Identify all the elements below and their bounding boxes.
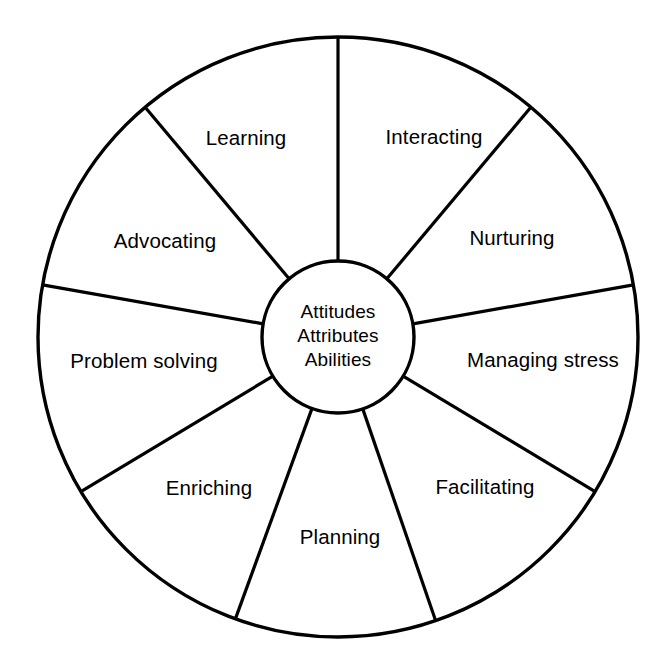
wheel-svg: AttitudesAttributesAbilities Interacting… [0,0,672,659]
hub-text-group: AttitudesAttributesAbilities [297,301,378,370]
segment-label-nurturing: Nurturing [469,226,554,249]
segment-label-problem-solving: Problem solving [70,349,217,372]
segment-label-enriching: Enriching [166,476,252,499]
competency-wheel-diagram: AttitudesAttributesAbilities Interacting… [0,0,672,659]
segment-label-facilitating: Facilitating [435,475,534,498]
segment-label-interacting: Interacting [386,125,483,148]
hub-label-line-0: Attitudes [301,301,376,322]
hub-label-line-1: Attributes [297,325,378,346]
segment-label-planning: Planning [300,525,381,548]
segment-label-advocating: Advocating [114,229,216,252]
segment-label-learning: Learning [206,126,287,149]
segment-label-managing-stress: Managing stress [467,348,619,371]
hub-label-line-2: Abilities [305,349,371,370]
